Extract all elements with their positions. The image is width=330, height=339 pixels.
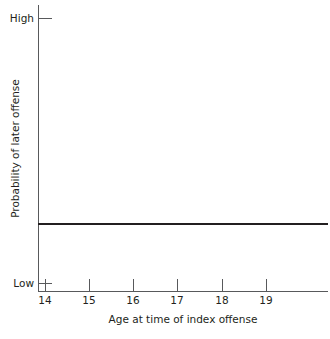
x-axis-tick-15 [89, 279, 90, 291]
y-axis-line [38, 5, 39, 292]
x-axis-tick-19 [266, 279, 267, 291]
chart-figure: High Low Probability of later offense 14… [0, 0, 330, 339]
x-axis-tick-label-14: 14 [30, 294, 60, 306]
x-axis-tick-17 [177, 279, 178, 291]
x-axis-tick-label-15: 15 [74, 294, 104, 306]
series-line-probability [38, 223, 328, 225]
x-axis-line [38, 291, 328, 292]
x-axis-tick-14 [45, 279, 46, 291]
x-axis-tick-16 [133, 279, 134, 291]
x-axis-tick-label-19: 19 [251, 294, 281, 306]
x-axis-tick-18 [222, 279, 223, 291]
x-axis-tick-label-16: 16 [118, 294, 148, 306]
x-axis-tick-label-18: 18 [207, 294, 237, 306]
x-axis-title: Age at time of index offense [38, 313, 328, 326]
x-axis-tick-label-17: 17 [162, 294, 192, 306]
y-axis-tick-high [39, 18, 52, 19]
y-axis-title: Probability of later offense [8, 5, 22, 292]
